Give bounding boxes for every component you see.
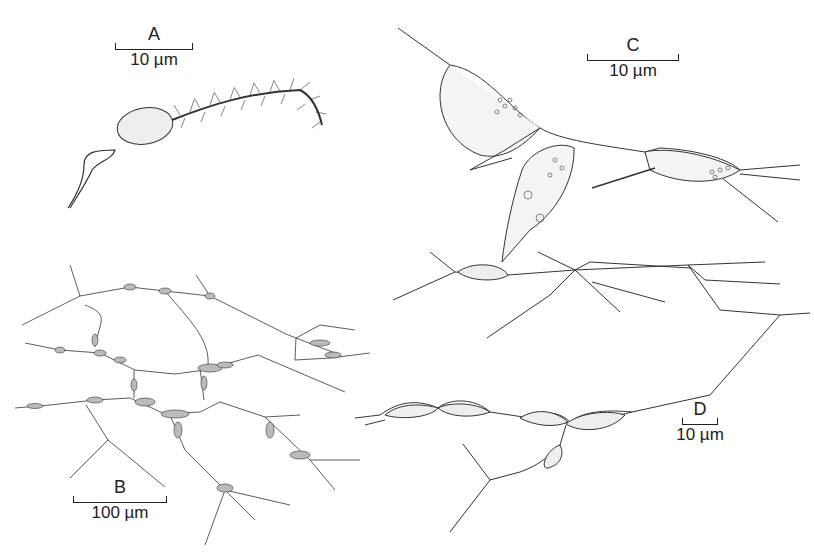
panel-label-d: D (670, 400, 730, 418)
panel-label-a: A (114, 25, 194, 43)
panel-label-b: B (70, 478, 170, 496)
scale-length-c: 10 µm (585, 61, 681, 81)
scalebar-c: C 10 µm (585, 36, 681, 81)
panel-d-drawing (355, 252, 810, 532)
scale-length-b: 100 µm (70, 503, 170, 523)
panel-label-c: C (585, 36, 681, 54)
scale-bar-line (587, 54, 679, 61)
scale-length-a: 10 µm (114, 50, 194, 70)
scalebar-a: A 10 µm (114, 25, 194, 70)
figure-drawing (0, 0, 814, 558)
scalebar-b: B 100 µm (70, 478, 170, 523)
scale-bar-line (115, 43, 193, 50)
scale-length-d: 10 µm (670, 425, 730, 445)
panel-a-drawing (68, 78, 326, 208)
scalebar-d: D 10 µm (670, 400, 730, 445)
scale-bar-line (682, 418, 718, 425)
panel-b-drawing (15, 265, 370, 545)
scale-bar-line (73, 496, 167, 503)
